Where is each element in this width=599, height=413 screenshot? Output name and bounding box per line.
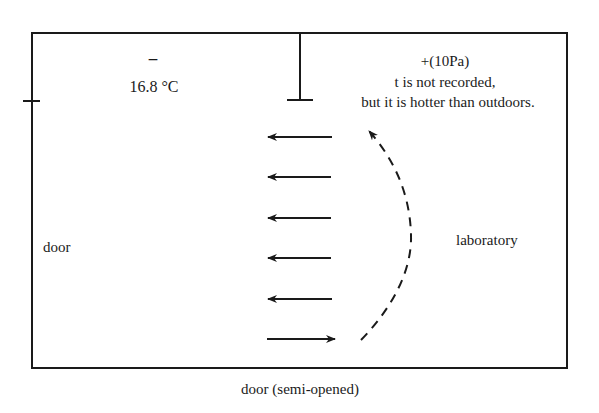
airflow-diagram	[0, 0, 599, 413]
left-room-temperature: 16.8 °C	[129, 78, 178, 96]
laboratory-label: laboratory	[456, 231, 518, 249]
left-door-label: door	[43, 238, 71, 256]
dashed-curved-arrow-icon	[361, 131, 411, 340]
left-room-pressure-sign: –	[149, 50, 158, 68]
bottom-door-label: door (semi-opened)	[241, 380, 359, 398]
right-room-pressure: +(10Pa)	[421, 52, 469, 70]
airflow-arrows	[267, 137, 335, 339]
right-room-note-line2: but it is hotter than outdoors.	[361, 93, 534, 111]
right-room-note-line1: t is not recorded,	[395, 73, 496, 91]
